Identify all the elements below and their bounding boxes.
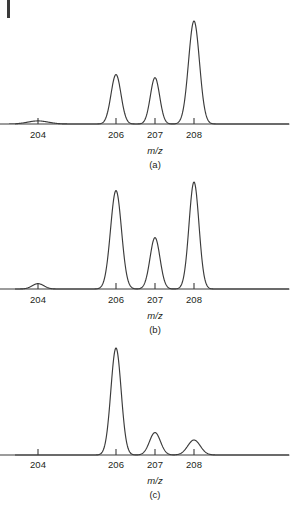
spectrum-panel-c: 204 206 207 208 m/z (c) — [0, 335, 301, 510]
axis-title-c: m/z — [147, 475, 163, 486]
panel-caption-c: (c) — [149, 489, 160, 500]
plot-a-graphics — [0, 21, 289, 124]
tick-label-207-a: 207 — [147, 129, 163, 140]
tick-label-204-b: 204 — [30, 294, 46, 305]
axis-title-b: m/z — [147, 310, 163, 321]
spectrum-plot-a: 204 206 207 208 m/z (a) — [0, 0, 301, 170]
spectrum-panel-a: 204 206 207 208 m/z (a) — [0, 0, 301, 170]
tick-label-208-b: 208 — [186, 294, 202, 305]
tick-label-207-c: 207 — [147, 459, 163, 470]
tick-label-208-a: 208 — [186, 129, 202, 140]
spectrum-trace-c — [0, 348, 289, 455]
tick-label-204-c: 204 — [30, 459, 46, 470]
axis-title-a: m/z — [147, 145, 163, 156]
spectrum-plot-b: 204 206 207 208 m/z (b) — [0, 170, 301, 335]
tick-label-206-b: 206 — [108, 294, 124, 305]
plot-b-graphics — [0, 182, 289, 289]
panel-caption-b: (b) — [149, 324, 161, 335]
spectrum-trace-a — [0, 21, 289, 124]
tick-label-204-a: 204 — [30, 129, 46, 140]
tick-label-206-c: 206 — [108, 459, 124, 470]
spectrum-panel-b: 204 206 207 208 m/z (b) — [0, 170, 301, 335]
spectrum-trace-b — [0, 182, 289, 289]
panel-caption-a: (a) — [149, 159, 161, 170]
tick-label-208-c: 208 — [186, 459, 202, 470]
plot-c-graphics — [0, 348, 289, 455]
tick-label-207-b: 207 — [147, 294, 163, 305]
figure-page: 204 206 207 208 m/z (a) 204 206 207 208 … — [0, 0, 301, 510]
spectrum-plot-c: 204 206 207 208 m/z (c) — [0, 335, 301, 510]
tick-label-206-a: 206 — [108, 129, 124, 140]
